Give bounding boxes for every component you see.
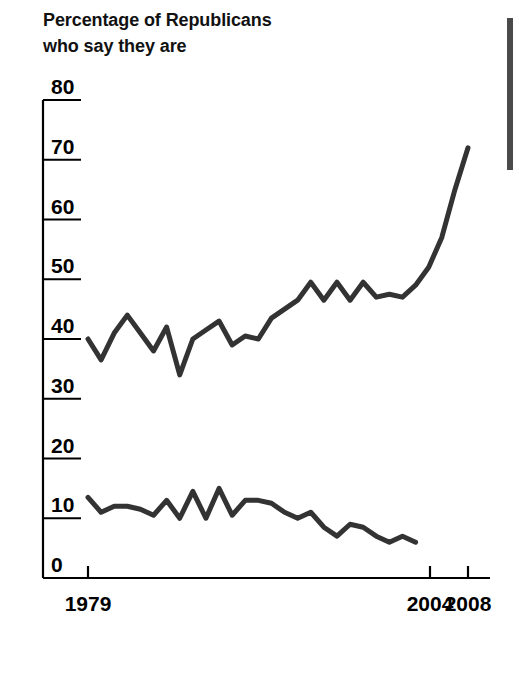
y-axis-tick-label: 50 <box>51 254 74 277</box>
x-axis-tick-label: 2008 <box>445 592 492 615</box>
y-axis-tick-label: 70 <box>51 135 74 158</box>
y-axis-tick-label: 20 <box>51 434 74 457</box>
y-axis-tick-label: 80 <box>51 75 74 98</box>
series-lower-line <box>88 488 416 542</box>
x-axis-tick-label: 1979 <box>65 592 112 615</box>
column-rule <box>507 18 513 170</box>
chart-series-group <box>88 148 468 542</box>
y-axis-tick-labels: 01020304050607080 <box>51 75 74 576</box>
chart-figure: Percentage of Republicans who say they a… <box>0 0 519 685</box>
y-axis-tick-label: 40 <box>51 314 74 337</box>
x-axis <box>43 566 490 578</box>
line-chart-plot: 01020304050607080 197920042008 <box>0 0 519 685</box>
series-upper-line <box>88 148 468 375</box>
y-axis-tick-label: 60 <box>51 195 74 218</box>
x-axis-tick-labels: 197920042008 <box>65 592 492 615</box>
y-axis-tick-label: 30 <box>51 374 74 397</box>
y-axis-tick-label: 0 <box>51 553 63 576</box>
y-axis-tick-label: 10 <box>51 493 74 516</box>
